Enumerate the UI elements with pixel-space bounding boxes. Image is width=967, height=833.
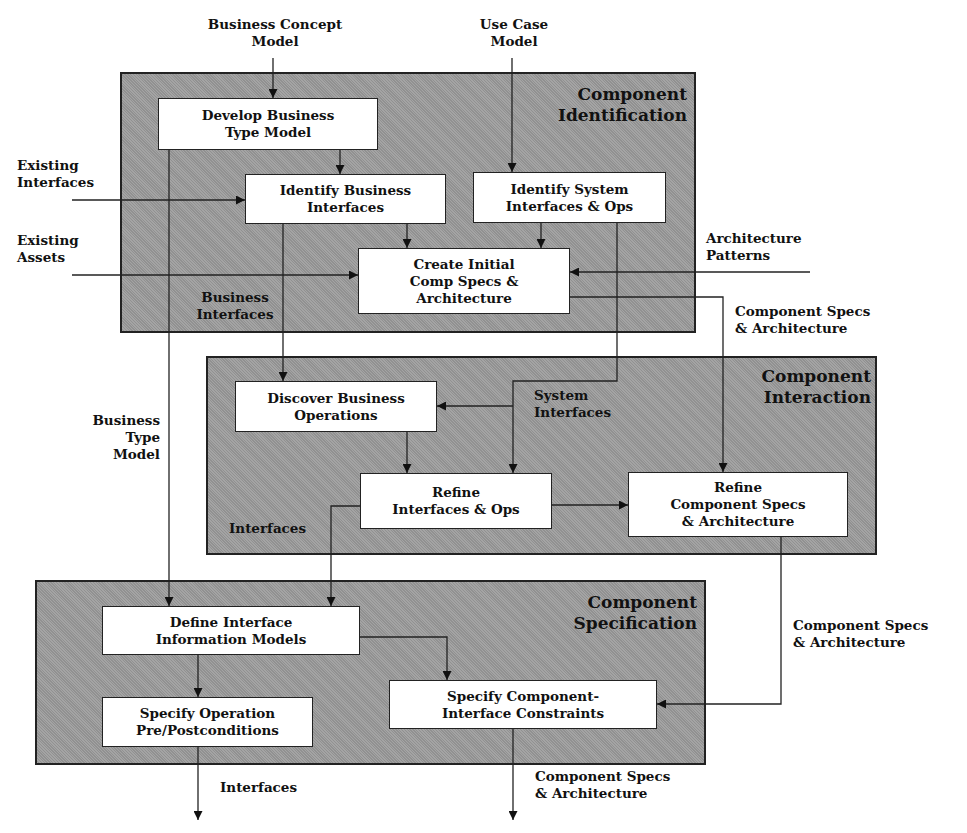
box-specify-component-interface-constraints[interactable]: Specify Component- Interface Constraints — [389, 680, 657, 729]
box-text: Interface Constraints — [442, 705, 604, 722]
label-existing-interfaces: Existing Interfaces — [17, 157, 94, 191]
box-develop-business-type-model[interactable]: Develop Business Type Model — [158, 98, 378, 150]
box-create-initial-comp-specs[interactable]: Create Initial Comp Specs & Architecture — [358, 248, 570, 314]
label-text: Interfaces — [220, 779, 297, 796]
label-text: System — [534, 387, 611, 404]
label-use-case-model: Use Case Model — [470, 16, 558, 50]
phase-title-line: Identification — [558, 105, 687, 126]
box-text: Refine — [432, 484, 480, 501]
label-existing-assets: Existing Assets — [17, 232, 79, 266]
label-text: Model — [200, 33, 350, 50]
label-text: Model — [470, 33, 558, 50]
box-text: Specify Operation — [140, 705, 275, 722]
box-specify-operation-conditions[interactable]: Specify Operation Pre/Postconditions — [102, 697, 313, 747]
phase-title-line: Component — [558, 84, 687, 105]
phase-title-identification: Component Identification — [558, 84, 687, 126]
label-component-specs-architecture-output: Component Specs & Architecture — [535, 768, 670, 802]
box-text: Comp Specs & — [410, 273, 519, 290]
box-text: Identify System — [510, 181, 628, 198]
label-text: Interfaces — [17, 174, 94, 191]
box-text: Identify Business — [280, 182, 411, 199]
label-text: Existing — [17, 232, 79, 249]
label-text: Business Concept — [200, 16, 350, 33]
phase-title-line: Interaction — [762, 387, 871, 408]
box-text: Operations — [294, 407, 377, 424]
label-text: Interfaces — [229, 520, 306, 537]
label-text: Type — [60, 429, 160, 446]
phase-title-line: Specification — [573, 613, 697, 634]
label-text: Interfaces — [190, 306, 280, 323]
label-component-specs-architecture-1: Component Specs & Architecture — [735, 303, 870, 337]
label-business-interfaces: Business Interfaces — [190, 289, 280, 323]
phase-title-interaction: Component Interaction — [762, 366, 871, 408]
label-text: & Architecture — [735, 320, 870, 337]
box-refine-interfaces-ops[interactable]: Refine Interfaces & Ops — [360, 473, 552, 529]
box-text: Create Initial — [413, 256, 514, 273]
box-text: Pre/Postconditions — [136, 722, 279, 739]
label-text: Existing — [17, 157, 94, 174]
box-text: Architecture — [416, 290, 512, 307]
phase-title-specification: Component Specification — [573, 592, 697, 634]
box-text: Component Specs — [670, 496, 805, 513]
box-text: & Architecture — [682, 513, 794, 530]
label-business-type-model: Business Type Model — [60, 412, 160, 463]
label-text: & Architecture — [535, 785, 670, 802]
label-business-concept-model: Business Concept Model — [200, 16, 350, 50]
label-text: Assets — [17, 249, 79, 266]
box-text: Discover Business — [267, 390, 404, 407]
box-define-interface-info-models[interactable]: Define Interface Information Models — [102, 606, 360, 655]
label-text: Architecture — [706, 230, 802, 247]
box-text: Interfaces & Ops — [506, 198, 633, 215]
box-text: Define Interface — [170, 614, 293, 631]
label-system-interfaces: System Interfaces — [534, 387, 611, 421]
box-discover-business-operations[interactable]: Discover Business Operations — [235, 381, 437, 432]
box-identify-business-interfaces[interactable]: Identify Business Interfaces — [245, 174, 446, 224]
label-architecture-patterns: Architecture Patterns — [706, 230, 802, 264]
label-text: Component Specs — [535, 768, 670, 785]
box-text: Interfaces & Ops — [392, 501, 519, 518]
label-interfaces-output: Interfaces — [220, 779, 297, 796]
phase-title-line: Component — [573, 592, 697, 613]
label-text: Business — [190, 289, 280, 306]
label-text: Component Specs — [793, 617, 928, 634]
box-text: Type Model — [225, 124, 311, 141]
label-text: & Architecture — [793, 634, 928, 651]
box-identify-system-interfaces[interactable]: Identify System Interfaces & Ops — [473, 172, 666, 223]
label-interfaces-mid: Interfaces — [229, 520, 306, 537]
box-text: Interfaces — [307, 199, 384, 216]
label-text: Model — [60, 446, 160, 463]
box-text: Information Models — [156, 631, 307, 648]
label-component-specs-architecture-2: Component Specs & Architecture — [793, 617, 928, 651]
box-refine-component-specs[interactable]: Refine Component Specs & Architecture — [628, 472, 848, 537]
box-text: Refine — [714, 479, 762, 496]
label-text: Component Specs — [735, 303, 870, 320]
box-text: Specify Component- — [447, 688, 599, 705]
label-text: Interfaces — [534, 404, 611, 421]
label-text: Patterns — [706, 247, 802, 264]
label-text: Use Case — [470, 16, 558, 33]
label-text: Business — [60, 412, 160, 429]
phase-title-line: Component — [762, 366, 871, 387]
box-text: Develop Business — [202, 107, 335, 124]
